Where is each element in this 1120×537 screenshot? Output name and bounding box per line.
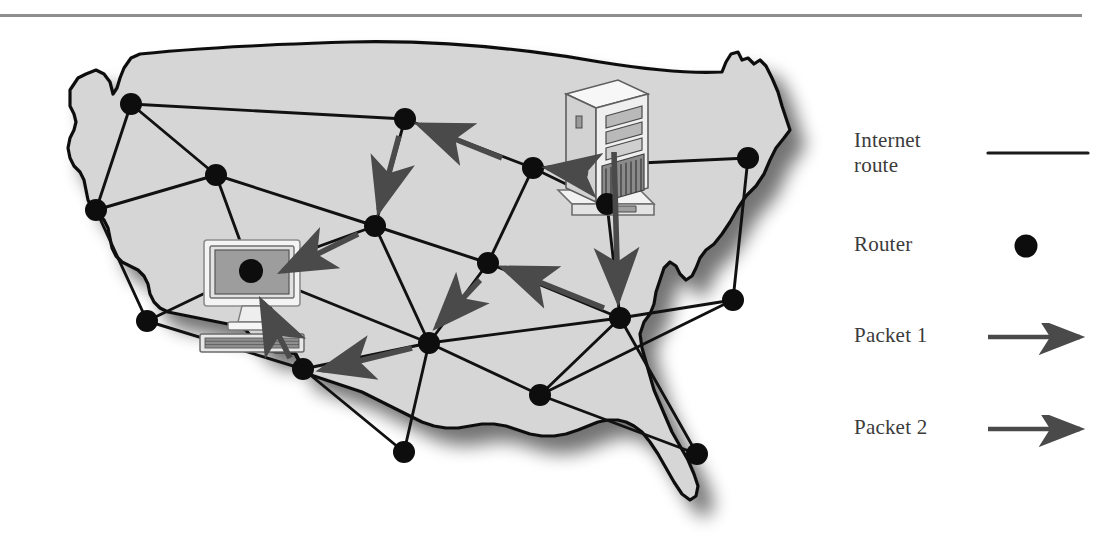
legend-row-packet-2: Packet 2	[852, 415, 1098, 477]
router-node	[85, 199, 107, 221]
legend-symbol-router	[984, 232, 1096, 276]
legend-label-packet-1: Packet 1	[854, 323, 974, 348]
router-node	[737, 147, 759, 169]
router-node	[292, 358, 314, 380]
legend-label-internet-route: Internet route	[854, 128, 974, 178]
router-node	[239, 259, 263, 283]
router-node	[393, 441, 415, 463]
legend-row-packet-1: Packet 1	[852, 323, 1098, 385]
router-node	[609, 307, 631, 329]
router-dot-symbol	[984, 232, 1096, 276]
figure-canvas: Internet route Router Packet 1	[0, 0, 1120, 537]
router-node	[364, 215, 386, 237]
map-landmass	[68, 42, 790, 500]
legend-label-packet-2: Packet 2	[854, 415, 974, 440]
legend-row-internet-route: Internet route	[852, 128, 1098, 190]
legend-symbol-packet-1	[984, 323, 1096, 367]
router-node	[477, 252, 499, 274]
network-map	[0, 18, 860, 533]
legend: Internet route Router Packet 1	[852, 128, 1098, 468]
router-node	[722, 289, 744, 311]
desktop-computer	[200, 240, 304, 352]
packet-2-arrow-symbol	[984, 415, 1096, 459]
server-side-button	[576, 116, 582, 128]
legend-row-router: Router	[852, 232, 1098, 294]
legend-label-line2: route	[854, 153, 974, 178]
us-outline-path	[68, 42, 790, 500]
packet-2-hop	[614, 152, 618, 300]
router-node	[394, 108, 416, 130]
router-node	[418, 332, 440, 354]
monitor-stand-neck	[238, 306, 266, 322]
router-node	[522, 157, 544, 179]
legend-symbol-packet-2	[984, 415, 1096, 459]
legend-symbol-internet-route	[984, 128, 1096, 172]
server-left-face	[566, 94, 596, 202]
router-node	[529, 384, 551, 406]
router-node	[205, 164, 227, 186]
router-node	[136, 310, 158, 332]
route-line-symbol	[984, 128, 1096, 172]
monitor-stand-base	[228, 322, 276, 330]
top-divider-rule	[0, 14, 1082, 17]
packet-1-arrow-symbol	[984, 323, 1096, 367]
map-stage	[0, 18, 860, 533]
router-node	[120, 93, 142, 115]
legend-label-router: Router	[854, 232, 974, 257]
router-node	[686, 443, 708, 465]
legend-label-line1: Internet	[854, 128, 974, 153]
